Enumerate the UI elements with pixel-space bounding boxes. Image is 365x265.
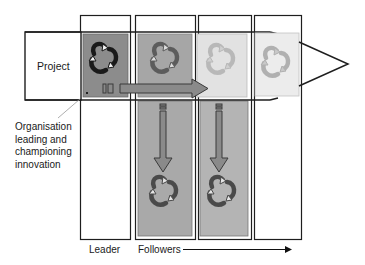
diagram: Project Organisation leading and champio…	[0, 0, 365, 265]
organisation-label-line: leading and	[15, 134, 72, 147]
organisation-label-line: championing	[15, 146, 72, 159]
organisation-label: Organisation leading and championing inn…	[15, 121, 72, 171]
project-label: Project	[37, 60, 70, 73]
marker-dot	[86, 92, 88, 94]
callout-line	[58, 99, 80, 118]
followers-label: Followers	[138, 244, 181, 257]
project-arrowhead	[299, 42, 348, 86]
followers-direction-arrow	[183, 246, 292, 253]
lower-cells	[138, 101, 248, 236]
organisation-label-line: innovation	[15, 159, 72, 172]
lower-cell-follower-2	[200, 101, 248, 236]
organisation-label-line: Organisation	[15, 121, 72, 134]
leader-label: Leader	[89, 244, 120, 257]
